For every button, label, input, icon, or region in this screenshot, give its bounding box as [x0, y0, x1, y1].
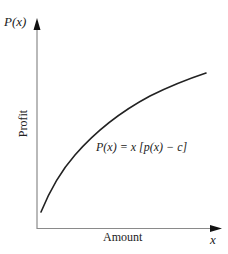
profit-curve-diagram: [0, 0, 228, 254]
x-axis-arrow-icon: [210, 225, 222, 232]
y-axis-title: P(x): [4, 14, 26, 30]
y-axis-arrow-icon: [34, 18, 41, 30]
x-axis-label: Amount: [103, 230, 142, 245]
profit-formula: P(x) = x [p(x) − c]: [96, 140, 187, 155]
y-axis-label: Profit: [16, 110, 31, 137]
x-axis-title: x: [210, 232, 216, 248]
